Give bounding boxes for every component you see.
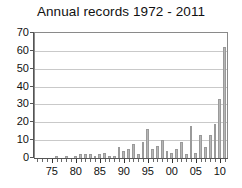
x-tick-1976: [57, 159, 58, 162]
x-tick-2000: [172, 159, 173, 163]
x-tick-1993: [138, 159, 139, 162]
x-tick-2005: [196, 159, 197, 163]
y-tick-label-30: 30: [17, 97, 29, 109]
x-axis-labels: 7580859095000510: [35, 165, 227, 181]
chart-title: Annual records 1972 - 2011: [0, 4, 242, 19]
x-tick-1985: [100, 159, 101, 163]
x-tick-1980: [76, 159, 77, 163]
x-tick-1979: [71, 159, 72, 162]
x-tick-1984: [95, 159, 96, 162]
bar-1996: [151, 149, 154, 158]
x-tick-label-10: 10: [214, 165, 226, 177]
x-tick-2002: [181, 159, 182, 162]
x-tick-1992: [133, 159, 134, 162]
x-tick-2008: [210, 159, 211, 162]
x-tick-1996: [153, 159, 154, 162]
x-tick-label-95: 95: [142, 165, 154, 177]
bar-1991: [127, 149, 130, 158]
x-tick-label-05: 05: [190, 165, 202, 177]
x-tick-2011: [225, 159, 226, 162]
x-tick-2003: [186, 159, 187, 162]
x-tick-1972: [37, 159, 38, 162]
x-tick-label-75: 75: [46, 165, 58, 177]
y-tick-label-10: 10: [17, 133, 29, 145]
x-tick-1995: [148, 159, 149, 163]
x-tick-1981: [81, 159, 82, 162]
x-tick-label-85: 85: [94, 165, 106, 177]
x-tick-1977: [61, 159, 62, 162]
x-tick-label-90: 90: [118, 165, 130, 177]
x-tick-1974: [47, 159, 48, 162]
y-axis: 010203040506070: [0, 32, 34, 159]
y-tick-label-0: 0: [23, 151, 29, 163]
bar-2010: [218, 99, 221, 158]
bar-1992: [132, 144, 135, 158]
bar-1990: [122, 151, 125, 158]
y-tick-label-70: 70: [17, 26, 29, 38]
x-tick-2007: [205, 159, 206, 162]
bar-2011: [223, 47, 226, 158]
x-tick-label-80: 80: [70, 165, 82, 177]
bar-2009: [214, 124, 217, 158]
x-tick-2010: [220, 159, 221, 163]
x-tick-label-00: 00: [166, 165, 178, 177]
y-tick-label-60: 60: [17, 44, 29, 56]
x-tick-1986: [105, 159, 106, 162]
bar-2004: [190, 126, 193, 158]
bar-1997: [156, 146, 159, 159]
x-tick-2004: [191, 159, 192, 162]
bar-1994: [142, 142, 145, 158]
bar-2008: [209, 135, 212, 158]
x-tick-2006: [201, 159, 202, 162]
bar-2002: [180, 142, 183, 158]
x-tick-2009: [215, 159, 216, 162]
bar-1995: [146, 129, 149, 158]
x-tick-1990: [124, 159, 125, 163]
x-tick-2001: [177, 159, 178, 162]
x-tick-1989: [119, 159, 120, 162]
bar-2007: [204, 147, 207, 158]
y-axis-spine: [33, 32, 34, 157]
x-tick-1975: [52, 159, 53, 163]
x-tick-1983: [90, 159, 91, 162]
x-tick-1991: [129, 159, 130, 162]
bar-1998: [161, 140, 164, 158]
y-tick-label-20: 20: [17, 115, 29, 127]
bar-2006: [199, 135, 202, 158]
bar-1989: [118, 147, 121, 158]
bars-container: [35, 33, 227, 158]
x-tick-1982: [85, 159, 86, 162]
x-tick-1997: [157, 159, 158, 162]
x-tick-1998: [162, 159, 163, 162]
annual-records-bar-chart: Annual records 1972 - 2011 0102030405060…: [0, 0, 242, 188]
x-tick-1987: [109, 159, 110, 162]
x-tick-1999: [167, 159, 168, 162]
x-tick-1973: [42, 159, 43, 162]
bar-1999: [166, 151, 169, 158]
y-tick-label-40: 40: [17, 80, 29, 92]
x-tick-1978: [66, 159, 67, 162]
x-tick-1994: [143, 159, 144, 162]
y-tick-label-50: 50: [17, 62, 29, 74]
bar-2001: [175, 149, 178, 158]
x-tick-1988: [114, 159, 115, 162]
